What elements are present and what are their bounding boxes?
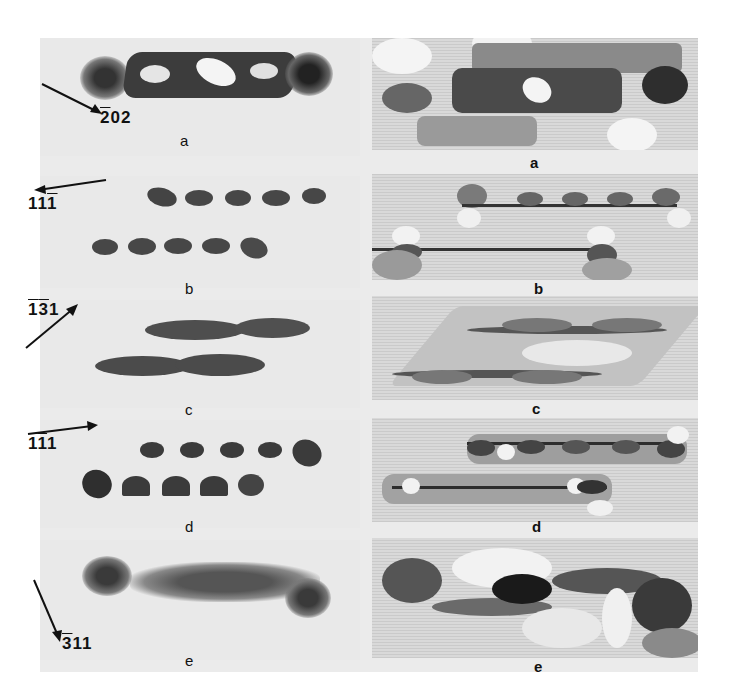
panel-label-c-right: c [532, 400, 540, 417]
miller-k: 1 [38, 434, 48, 453]
miller-k: 1 [72, 634, 82, 653]
panel-label-d-right: d [532, 518, 541, 535]
arrow-icon [24, 302, 84, 352]
panel-label-b-left: b [185, 280, 193, 297]
panel-label-d-left: d [185, 518, 193, 535]
direction-label-e: 311 [62, 634, 92, 654]
miller-l: 1 [82, 634, 92, 653]
panel-label-a-left: a [180, 132, 188, 149]
miller-l: 1 [47, 194, 57, 213]
panel-label-b-right: b [534, 280, 543, 297]
miller-k: 0 [110, 108, 120, 127]
panel-label-e-right: e [534, 658, 542, 675]
figure: 202 a a 111 b [40, 38, 698, 672]
micrograph-c-experimental [40, 300, 360, 408]
miller-k: 1 [38, 194, 48, 213]
direction-label-b: 111 [28, 194, 58, 214]
panel-label-e-left: e [185, 652, 193, 669]
arrow-icon [28, 176, 108, 196]
micrograph-b-simulated [372, 174, 698, 280]
miller-l: 2 [121, 108, 131, 127]
micrograph-a-simulated [372, 38, 698, 150]
arrow-icon [40, 74, 110, 124]
miller-h: 3 [62, 634, 72, 653]
miller-h: 1 [28, 194, 38, 213]
panel-label-c-left: c [185, 401, 193, 418]
micrograph-d-simulated [372, 418, 698, 522]
direction-label-d: 111 [28, 434, 58, 454]
micrograph-c-simulated [372, 296, 698, 400]
miller-h: 1 [28, 434, 38, 453]
panel-label-a-right: a [530, 154, 538, 171]
miller-l: 1 [47, 434, 57, 453]
micrograph-e-simulated [372, 538, 698, 658]
